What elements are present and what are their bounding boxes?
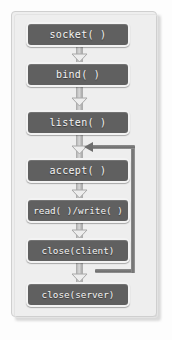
arrow-down-icon-accept-to-readwrite bbox=[71, 189, 88, 198]
node-accept-label: accept( ) bbox=[50, 165, 107, 176]
arrow-down-icon-readwrite-to-close-client bbox=[71, 229, 88, 238]
node-close-server-label: close(server) bbox=[42, 289, 115, 300]
node-close-client-label: close(client) bbox=[42, 245, 115, 256]
loop-segment-vertical bbox=[131, 147, 135, 273]
loop-segment-top bbox=[92, 145, 135, 149]
arrow-left-icon-loop-to-accept bbox=[84, 141, 96, 153]
node-listen-label: listen( ) bbox=[50, 117, 107, 128]
node-accept[interactable]: accept( ) bbox=[26, 158, 130, 183]
node-read-write[interactable]: read( )/write( ) bbox=[26, 198, 130, 223]
arrow-down-icon-close-client-to-close-server bbox=[71, 273, 88, 282]
node-close-server[interactable]: close(server) bbox=[26, 282, 130, 307]
node-close-client[interactable]: close(client) bbox=[26, 238, 130, 263]
node-listen[interactable]: listen( ) bbox=[26, 110, 130, 135]
arrow-down-icon-bind-to-listen bbox=[71, 97, 88, 106]
node-read-write-label: read( )/write( ) bbox=[33, 205, 123, 216]
loop-segment-bottom bbox=[95, 269, 135, 273]
node-bind[interactable]: bind( ) bbox=[26, 62, 130, 87]
arrow-down-icon-socket-to-bind bbox=[71, 53, 88, 62]
node-socket-label: socket( ) bbox=[50, 29, 107, 40]
node-bind-label: bind( ) bbox=[56, 69, 100, 80]
diagram-canvas: socket( ) bind( ) listen( ) accept( ) re… bbox=[0, 0, 172, 340]
node-socket[interactable]: socket( ) bbox=[26, 22, 130, 47]
